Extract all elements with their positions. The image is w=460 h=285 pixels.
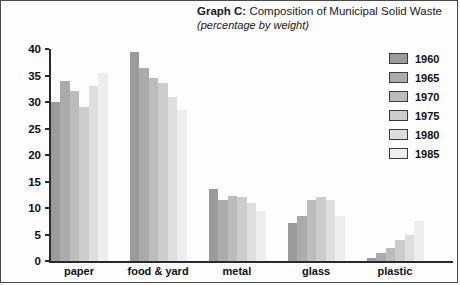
- bar: [405, 235, 415, 262]
- y-axis-labels: 4035302520151050: [0, 49, 41, 262]
- bar: [288, 223, 298, 261]
- legend-swatch: [389, 91, 408, 102]
- legend-label: 1975: [415, 110, 439, 122]
- chart-title-block: Graph C: Composition of Municipal Solid …: [197, 5, 455, 32]
- bar: [326, 200, 336, 261]
- chart-figure: Graph C: Composition of Municipal Solid …: [0, 0, 458, 283]
- y-tick-label: 30: [28, 97, 41, 107]
- chart-title-label: Graph C:: [197, 5, 246, 17]
- legend-swatch: [389, 72, 408, 83]
- bar-group: [130, 49, 187, 261]
- legend-label: 1985: [415, 148, 439, 160]
- bar: [395, 240, 405, 261]
- x-tick-label: paper: [64, 265, 94, 277]
- y-axis-tick: [45, 128, 49, 130]
- bar-group: [209, 49, 266, 261]
- chart-subtitle: (percentage by weight): [197, 19, 455, 32]
- x-axis-line: [49, 261, 453, 263]
- bar: [247, 203, 257, 261]
- y-axis-tick: [45, 154, 49, 156]
- x-tick-label: metal: [223, 265, 252, 277]
- y-axis-tick: [45, 101, 49, 103]
- x-tick-label: food & yard: [128, 265, 189, 277]
- bar: [158, 83, 168, 261]
- plot-area: [49, 49, 379, 262]
- bar: [237, 197, 247, 261]
- bar: [228, 196, 238, 261]
- legend-swatch: [389, 53, 408, 64]
- legend-swatch: [389, 110, 408, 121]
- legend-item[interactable]: 1975: [389, 106, 455, 125]
- bar: [139, 68, 149, 261]
- bar: [130, 52, 140, 261]
- x-tick-label: glass: [302, 265, 330, 277]
- legend-item[interactable]: 1965: [389, 68, 455, 87]
- chart-title: Graph C: Composition of Municipal Solid …: [197, 5, 455, 18]
- bar: [89, 86, 99, 261]
- legend-item[interactable]: 1970: [389, 87, 455, 106]
- bar: [414, 221, 424, 261]
- x-axis-labels: paperfood & yardmetalglassplastic: [49, 265, 449, 281]
- y-tick-label: 0: [35, 256, 41, 266]
- y-tick-label: 15: [28, 177, 41, 187]
- bar: [209, 189, 219, 261]
- legend-label: 1970: [415, 91, 439, 103]
- y-tick-label: 40: [28, 44, 41, 54]
- bar: [297, 216, 307, 261]
- bar: [168, 97, 178, 261]
- chart-legend: 196019651970197519801985: [389, 49, 455, 163]
- bar-group: [288, 49, 345, 261]
- y-tick-label: 10: [28, 203, 41, 213]
- bar: [376, 253, 386, 261]
- legend-swatch: [389, 129, 408, 140]
- legend-label: 1965: [415, 72, 439, 84]
- bar: [60, 81, 70, 261]
- legend-item[interactable]: 1980: [389, 125, 455, 144]
- bar: [177, 110, 187, 261]
- bar-group: [51, 49, 108, 261]
- bar: [307, 200, 317, 261]
- y-tick-label: 25: [28, 124, 41, 134]
- y-tick-label: 35: [28, 71, 41, 81]
- y-axis-tick: [45, 234, 49, 236]
- bar: [70, 91, 80, 261]
- y-axis-tick: [45, 207, 49, 209]
- legend-item[interactable]: 1960: [389, 49, 455, 68]
- bar: [218, 200, 228, 261]
- bar: [316, 197, 326, 261]
- legend-item[interactable]: 1985: [389, 144, 455, 163]
- bar: [98, 73, 108, 261]
- bar: [256, 211, 266, 261]
- bar: [51, 102, 61, 261]
- bar: [386, 248, 396, 261]
- y-axis-tick: [45, 260, 49, 262]
- y-axis-tick: [45, 181, 49, 183]
- legend-swatch: [389, 148, 408, 159]
- bar: [367, 258, 377, 261]
- y-axis-tick: [45, 48, 49, 50]
- x-tick-label: plastic: [378, 265, 413, 277]
- legend-label: 1980: [415, 129, 439, 141]
- bar: [79, 107, 89, 261]
- legend-label: 1960: [415, 53, 439, 65]
- bar: [335, 216, 345, 261]
- y-tick-label: 5: [35, 230, 41, 240]
- y-tick-label: 20: [28, 150, 41, 160]
- y-axis-tick: [45, 75, 49, 77]
- bar: [149, 78, 159, 261]
- chart-title-text: Composition of Municipal Solid Waste: [246, 5, 442, 17]
